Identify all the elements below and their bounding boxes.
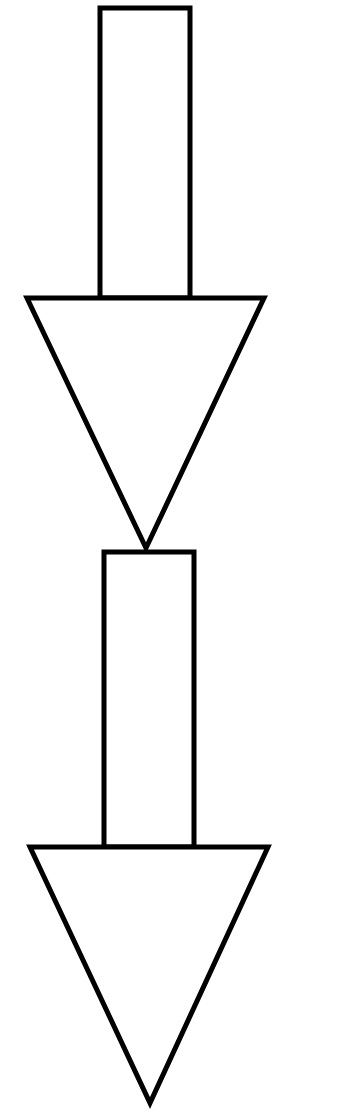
down-arrow-icon: [30, 552, 268, 1103]
arrow-shaft: [100, 8, 190, 298]
arrow-head: [27, 298, 264, 548]
diagram-canvas: [0, 0, 354, 1112]
down-arrow-icon: [27, 8, 264, 548]
arrow-shaft: [104, 552, 194, 847]
arrow-head: [30, 847, 268, 1103]
